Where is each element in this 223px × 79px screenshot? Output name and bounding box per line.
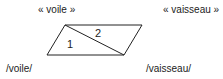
region-2-label: 2 (95, 27, 101, 39)
signifier-voile-label: /voile/ (6, 63, 32, 74)
region-1-label: 1 (67, 38, 73, 50)
signifier-vaisseau-label: /vaisseau/ (146, 63, 191, 74)
